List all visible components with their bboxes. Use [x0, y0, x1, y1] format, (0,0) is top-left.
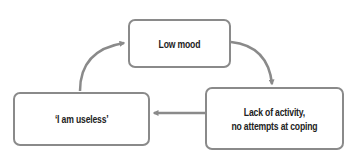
node-lack-of-activity-label: Lack of activity, no attempts at coping — [231, 105, 317, 133]
node-low-mood: Low mood — [128, 19, 231, 68]
node-low-mood-label: Low mood — [159, 37, 201, 51]
node-i-am-useless: ‘I am useless’ — [13, 92, 150, 146]
arrow-left-to-top — [80, 43, 124, 91]
node-lack-of-activity: Lack of activity, no attempts at coping — [205, 87, 344, 150]
arrow-top-to-right — [231, 42, 272, 84]
node-i-am-useless-label: ‘I am useless’ — [55, 112, 109, 126]
